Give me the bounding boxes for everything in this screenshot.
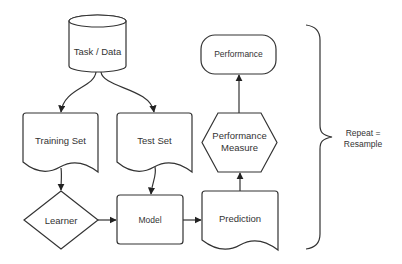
learner-node: Learner xyxy=(24,191,98,249)
brace-label-line2: Resample xyxy=(344,139,383,149)
performance-measure-node: Performance Measure xyxy=(202,113,277,172)
training-set-label: Training Set xyxy=(35,135,86,146)
prediction-node: Prediction xyxy=(202,191,278,250)
test-set-label: Test Set xyxy=(137,135,172,146)
performance-node: Performance xyxy=(201,35,276,74)
task-data-node: Task / Data xyxy=(69,15,126,72)
performance-measure-label-line1: Performance xyxy=(212,130,266,141)
edge-test-to-model xyxy=(151,167,155,194)
prediction-label: Prediction xyxy=(219,213,261,224)
edge-task-to-test xyxy=(101,72,154,112)
edge-task-to-training xyxy=(61,72,96,112)
brace-label-line1: Repeat = xyxy=(346,128,381,138)
model-label: Model xyxy=(138,215,161,225)
performance-label: Performance xyxy=(214,49,263,59)
flowchart-canvas: Task / Data Training Set Test Set Learne… xyxy=(0,0,402,264)
training-set-node: Training Set xyxy=(23,113,98,172)
model-node: Model xyxy=(117,195,183,244)
repeat-brace xyxy=(306,25,332,249)
learner-label: Learner xyxy=(45,215,78,226)
test-set-node: Test Set xyxy=(117,113,192,172)
task-data-label: Task / Data xyxy=(74,46,122,57)
performance-measure-label-line2: Measure xyxy=(221,142,258,153)
